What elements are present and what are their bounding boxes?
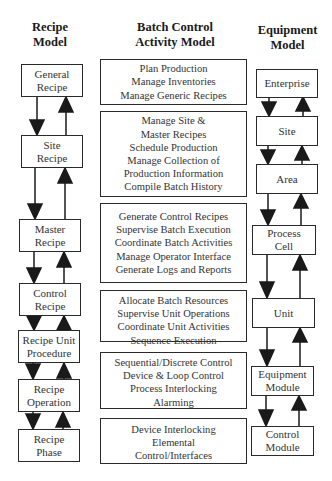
recipe-box-site-recipe: Site Recipe: [21, 135, 83, 168]
box-line: Module: [265, 381, 299, 394]
activity-box-unit-supervision: Allocate Batch Resources Supervise Unit …: [100, 290, 247, 342]
recipe-box-operation: Recipe Operation: [18, 379, 80, 412]
recipe-box-unit-procedure: Recipe Unit Procedure: [18, 330, 80, 363]
activity-model-header: Batch Control Activity Model: [110, 20, 240, 50]
equipment-model-header: Equipment Model: [250, 23, 325, 53]
box-line: Manage Inventories: [131, 75, 215, 88]
box-line: Unit: [274, 307, 294, 320]
box-line: Recipe: [35, 300, 66, 313]
box-line: Recipe: [35, 236, 66, 249]
box-line: Sequence Execution: [130, 334, 216, 347]
box-line: Site: [43, 139, 60, 152]
header-line: Recipe: [10, 20, 90, 35]
box-line: Site: [278, 125, 295, 138]
activity-box-site-management: Manage Site & Master Recipes Schedule Pr…: [100, 111, 247, 197]
activity-box-device-control: Device Interlocking Elemental Control/In…: [100, 418, 247, 464]
equipment-box-control-module: Control Module: [251, 426, 314, 456]
box-line: Manage Collection of: [127, 154, 219, 167]
box-line: Supervise Unit Operations: [117, 307, 229, 320]
box-line: Compile Batch History: [124, 180, 222, 193]
box-line: Device & Loop Control: [123, 369, 224, 382]
header-line: Batch Control: [110, 20, 240, 35]
box-line: Manage Generic Recipes: [120, 89, 226, 102]
box-line: Recipe: [34, 383, 65, 396]
box-line: Recipe: [37, 81, 68, 94]
box-line: Elemental: [152, 436, 195, 449]
recipe-box-master-recipe: Master Recipe: [19, 219, 81, 252]
activity-box-planning: Plan Production Manage Inventories Manag…: [100, 59, 247, 105]
box-line: Procedure: [27, 347, 72, 360]
box-line: Module: [265, 441, 299, 454]
activity-box-batch-management: Generate Control Recipes Supervise Batch…: [100, 203, 247, 283]
box-line: Enterprise: [264, 77, 309, 90]
equipment-box-equipment-module: Equipment Module: [251, 366, 314, 396]
box-line: Process: [267, 227, 301, 240]
box-line: Control: [266, 428, 300, 441]
box-line: Master: [35, 223, 66, 236]
box-line: Plan Production: [140, 62, 208, 75]
box-line: Equipment: [258, 368, 306, 381]
equipment-box-area: Area: [256, 164, 318, 194]
box-line: Schedule Production: [130, 141, 218, 154]
box-line: Sequential/Discrete Control: [115, 356, 233, 369]
recipe-box-control-recipe: Control Recipe: [19, 283, 81, 316]
box-line: Operation: [27, 396, 71, 409]
box-line: Control/Interfaces: [135, 449, 212, 462]
recipe-box-phase: Recipe Phase: [18, 429, 80, 462]
box-line: Coordinate Unit Activities: [118, 320, 230, 333]
box-line: Manage Site &: [141, 114, 205, 127]
header-line: Activity Model: [110, 35, 240, 50]
box-line: Alarming: [153, 396, 194, 409]
box-line: Generate Control Recipes: [119, 210, 228, 223]
activity-box-process-control: Sequential/Discrete Control Device & Loo…: [100, 352, 247, 409]
box-line: Allocate Batch Resources: [119, 294, 228, 307]
box-line: Cell: [275, 240, 293, 253]
box-line: Device Interlocking: [131, 423, 215, 436]
box-line: Area: [276, 173, 297, 186]
box-line: Coordinate Batch Activities: [115, 236, 233, 249]
box-line: Phase: [36, 446, 62, 459]
equipment-box-unit: Unit: [252, 298, 315, 328]
box-line: Process Interlocking: [130, 382, 217, 395]
equipment-box-site: Site: [256, 116, 318, 146]
box-line: Manage Operator Interface: [116, 250, 231, 263]
box-line: Master Recipes: [141, 128, 207, 141]
header-line: Equipment: [250, 23, 325, 38]
equipment-box-process-cell: Process Cell: [252, 225, 316, 255]
box-line: Recipe: [37, 152, 68, 165]
box-line: Production Information: [124, 167, 224, 180]
box-line: General: [35, 68, 70, 81]
recipe-box-general-recipe: General Recipe: [21, 64, 83, 97]
header-line: Model: [10, 35, 90, 50]
box-line: Control: [33, 287, 67, 300]
box-line: Recipe Unit: [23, 334, 76, 347]
box-line: Recipe: [34, 433, 65, 446]
header-line: Model: [250, 38, 325, 53]
box-line: Supervise Batch Execution: [116, 223, 231, 236]
box-line: Generate Logs and Reports: [116, 263, 232, 276]
recipe-model-header: Recipe Model: [10, 20, 90, 50]
equipment-box-enterprise: Enterprise: [256, 69, 318, 98]
